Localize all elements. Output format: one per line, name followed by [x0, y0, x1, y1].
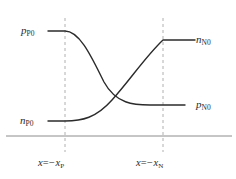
label-n-P0-subscript: P0 — [26, 119, 34, 128]
label-n-N0-symbol: n — [196, 33, 202, 45]
label-p-P0-symbol: p — [21, 24, 27, 36]
axis-label-x-P: x=−xP — [38, 158, 64, 169]
label-p-P0-subscript: P0 — [27, 29, 35, 38]
label-n-P0-symbol: n — [20, 114, 26, 126]
carrier-concentration-figure: pP0 nP0 nN0 pN0 x=−xP x=−xN — [0, 0, 236, 179]
axis-label-x-P-equals: =− — [43, 157, 56, 168]
label-n-P0: nP0 — [20, 115, 34, 126]
figure-canvas — [0, 0, 236, 179]
label-p-P0: pP0 — [21, 25, 35, 36]
label-p-N0-subscript: N0 — [202, 103, 211, 112]
axis-label-x-N: x=−xN — [136, 158, 163, 169]
axis-label-x-P-subscript: P — [60, 162, 64, 170]
axis-label-x-N-subscript: N — [158, 162, 163, 170]
electron-concentration-curve — [48, 40, 195, 121]
label-p-N0: pN0 — [196, 99, 211, 110]
label-p-N0-symbol: p — [196, 98, 202, 110]
axis-label-x-N-equals: =− — [141, 157, 154, 168]
label-n-N0: nN0 — [196, 34, 211, 45]
label-n-N0-subscript: N0 — [202, 38, 211, 47]
